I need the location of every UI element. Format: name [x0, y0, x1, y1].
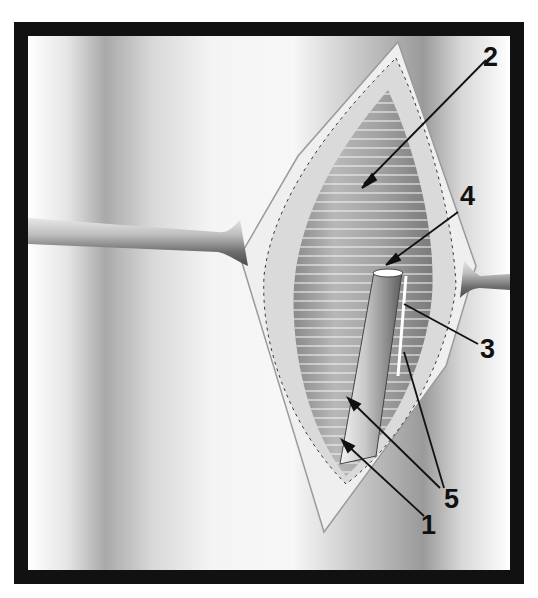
illustration-frame: 2 4 3 5 1: [14, 22, 524, 584]
callout-3: 3: [480, 336, 495, 363]
callout-5: 5: [444, 486, 459, 513]
callout-4: 4: [460, 183, 475, 210]
callout-1: 1: [421, 512, 436, 539]
surgical-illustration: [28, 36, 510, 570]
callout-2: 2: [483, 44, 498, 71]
